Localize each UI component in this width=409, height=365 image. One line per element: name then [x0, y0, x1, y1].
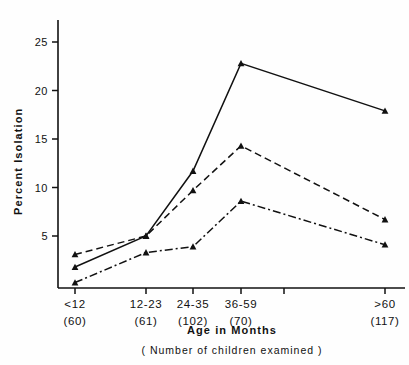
data-point-marker-s1-4: [382, 216, 389, 222]
y-tick-label-25: 25: [35, 36, 48, 48]
x-category-label-3: 36-59: [225, 298, 257, 310]
series-dashdot-triangle-series: [72, 198, 389, 286]
y-tick-label-20: 20: [35, 85, 48, 97]
data-point-marker-s0-3: [238, 60, 245, 66]
x-category-label-2: 24-35: [177, 298, 209, 310]
data-point-marker-s1-2: [190, 187, 197, 193]
x-category-label-0: <12: [64, 298, 85, 310]
data-series-group: [72, 60, 389, 286]
x-axis-title: Age in Months: [187, 324, 277, 336]
y-tick-label-15: 15: [35, 133, 48, 145]
data-point-marker-s1-3: [238, 142, 245, 148]
data-point-marker-s0-2: [190, 168, 197, 174]
series-dashed-triangle-series: [72, 142, 389, 257]
x-axis-category-labels: <1212-2324-3536-59>60: [64, 298, 395, 310]
x-category-label-1: 12-23: [130, 298, 162, 310]
y-tick-label-10: 10: [35, 182, 48, 194]
y-axis-title: Percent Isolation: [12, 108, 24, 215]
chart-figure: 510152025 <1212-2324-3536-59>60 (60)(61)…: [0, 0, 409, 365]
x-count-label-4: (117): [371, 315, 400, 327]
y-axis-ticks: [52, 42, 58, 236]
x-axis-ticks: [75, 288, 385, 294]
series-solid-triangle-series: [72, 60, 389, 270]
data-point-marker-s2-1: [143, 249, 150, 255]
data-point-marker-s2-3: [238, 198, 245, 204]
x-axis-subtitle: ( Number of children examined ): [142, 344, 323, 356]
data-point-marker-s2-2: [190, 243, 197, 249]
y-tick-label-5: 5: [41, 230, 48, 242]
x-count-label-1: (61): [135, 315, 158, 327]
y-axis-tick-labels: 510152025: [35, 36, 48, 242]
x-category-label-4: >60: [374, 298, 395, 310]
x-count-label-0: (60): [64, 315, 87, 327]
series-line-1: [75, 146, 385, 255]
series-line-0: [75, 63, 385, 267]
line-chart-canvas: 510152025 <1212-2324-3536-59>60 (60)(61)…: [0, 0, 409, 365]
